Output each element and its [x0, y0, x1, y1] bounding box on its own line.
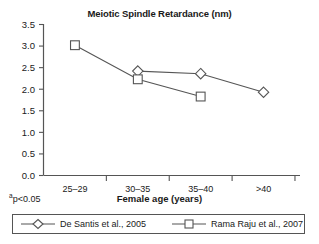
data-point-diamond[interactable] [258, 87, 268, 97]
square-marker-icon [172, 218, 206, 230]
y-tick-label: 1.5 [22, 105, 35, 116]
y-axis-ticks: 0.00.51.01.52.02.53.03.5 [22, 19, 44, 181]
y-tick-label: 3.5 [22, 19, 35, 30]
data-point-square[interactable] [133, 75, 142, 84]
legend-item-de-santis[interactable]: De Santis et al., 2005 [21, 218, 146, 230]
x-axis-label: Female age (years) [0, 193, 319, 204]
x-axis-ticks [106, 176, 295, 182]
legend-label: Rama Raju et al., 2007 [211, 219, 303, 229]
y-tick-label: 2.5 [22, 62, 35, 73]
y-tick-label: 3.0 [22, 40, 35, 51]
chart-figure: Meiotic Spindle Retardance (nm) 0.00.51.… [0, 0, 319, 244]
y-tick-label: 2.0 [22, 84, 35, 95]
y-tick-label: 0.5 [22, 148, 35, 159]
legend-item-rama-raju[interactable]: Rama Raju et al., 2007 [172, 218, 303, 230]
legend-label: De Santis et al., 2005 [60, 219, 146, 229]
significance-footnote: ap<0.05 [9, 192, 40, 204]
data-point-diamond[interactable] [195, 68, 205, 78]
y-tick-label: 0.0 [22, 170, 35, 181]
plot-area: 0.00.51.01.52.02.53.03.5 25–2930–3535–40… [0, 0, 319, 200]
data-point-square[interactable] [71, 41, 80, 50]
footnote-text: p<0.05 [13, 194, 41, 204]
chart-legend: De Santis et al., 2005 Rama Raju et al.,… [12, 214, 305, 234]
data-series-layer [71, 41, 269, 101]
diamond-marker-icon [21, 218, 55, 230]
data-point-square[interactable] [196, 92, 205, 101]
y-tick-label: 1.0 [22, 127, 35, 138]
